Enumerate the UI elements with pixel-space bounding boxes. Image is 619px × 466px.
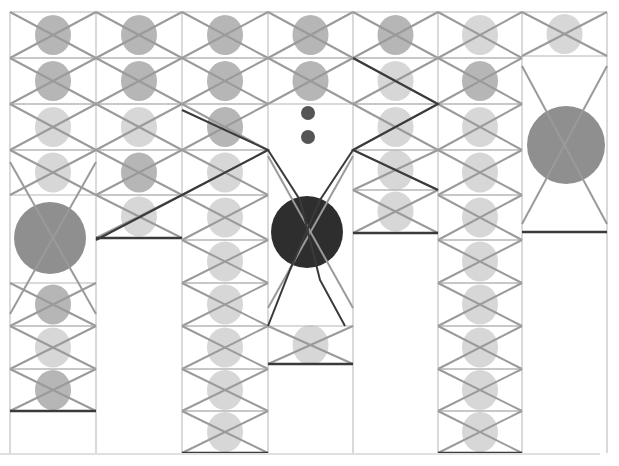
large-circle bbox=[527, 106, 605, 184]
small-dot bbox=[301, 106, 315, 120]
abstract-grid-drawing bbox=[0, 0, 619, 466]
small-dot bbox=[301, 130, 315, 144]
large-circle bbox=[14, 202, 86, 274]
